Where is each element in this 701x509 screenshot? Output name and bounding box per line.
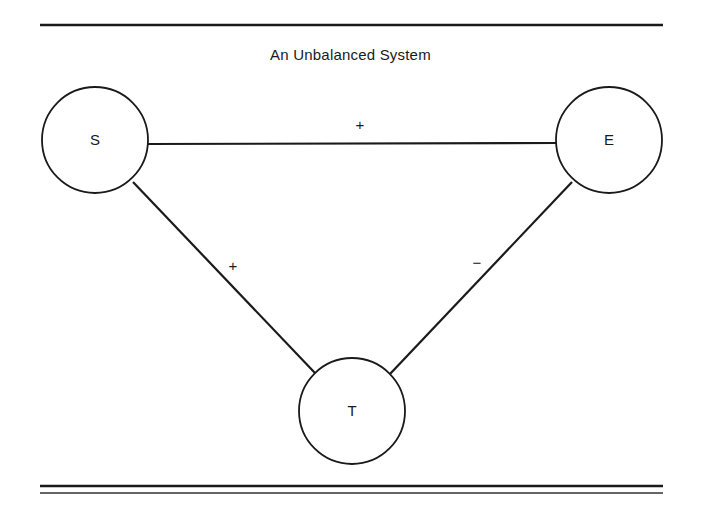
edge-s-t: [133, 182, 315, 373]
edge-e-t-sign: −: [467, 254, 487, 271]
node-e-label: E: [589, 131, 629, 148]
diagram-title: An Unbalanced System: [0, 46, 701, 63]
edge-e-t: [390, 182, 572, 374]
edge-s-t-sign: +: [223, 257, 243, 274]
edge-s-e: [148, 143, 556, 144]
node-t-label: T: [332, 402, 372, 419]
node-s-label: S: [75, 131, 115, 148]
diagram-canvas: [0, 0, 701, 509]
edge-s-e-sign: +: [350, 116, 370, 133]
